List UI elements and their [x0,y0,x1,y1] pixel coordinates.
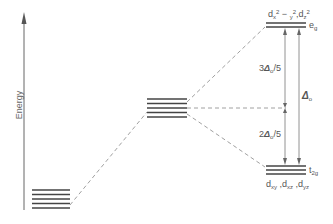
crystal-field-diagram [0,0,333,224]
lower-split-label: 2Δo/5 [259,130,281,140]
t2g-levels [266,166,306,174]
eg-orbitals-label: dx2 − y2,dz2 [268,9,310,20]
total-split-label: Δo [302,91,312,102]
free-ion-levels [32,190,70,208]
upper-split-label: 3Δo/5 [259,64,281,74]
energy-axis-label: Energy [14,80,24,130]
eg-levels [266,23,306,27]
t2g-label: t2g [309,166,318,176]
correlation-lines [70,27,286,205]
spherical-field-levels [147,99,187,117]
t2g-orbitals-label: dxy ,dxz ,dyz [266,180,309,190]
splitting-arrows [283,28,301,165]
eg-label: eg [309,21,317,31]
